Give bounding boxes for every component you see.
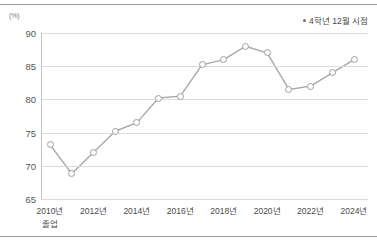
data-point-marker[interactable] [47,141,54,148]
y-gridline [42,33,368,34]
data-point-marker[interactable] [307,83,314,90]
data-point-marker[interactable] [242,43,249,50]
y-axis-tick-label: 90 [0,28,36,39]
y-axis-tick-label: 70 [0,160,36,171]
plot-area: 9085807570652010년졸업2012년2014년2016년2018년2… [0,0,377,244]
y-gridline [42,133,368,134]
x-axis-tick-sublabel: 졸업 [37,217,64,229]
y-gridline [42,199,368,200]
data-point-marker[interactable] [112,128,119,135]
y-axis-tick-label: 85 [0,61,36,72]
data-point-marker[interactable] [199,61,206,68]
data-point-marker[interactable] [351,56,358,63]
x-axis-tick-label: 2010년졸업 [37,204,64,229]
x-axis-tick-label: 2016년 [167,204,194,216]
data-point-marker[interactable] [90,149,97,156]
data-point-marker[interactable] [177,93,184,100]
x-axis-tick-label: 2014년 [123,204,150,216]
x-axis-tick-label: 2022년 [297,204,324,216]
data-point-marker[interactable] [155,95,162,102]
y-axis-tick-label: 65 [0,194,36,205]
y-axis-tick-label: 75 [0,127,36,138]
x-axis-tick-label: 2018년 [210,204,237,216]
x-axis-tick-label: 2020년 [254,204,281,216]
y-axis-tick-label: 80 [0,94,36,105]
x-axis-tick-label: 2024년 [341,204,368,216]
y-gridline [42,166,368,167]
x-axis-tick-label: 2012년 [80,204,107,216]
y-axis-line [41,33,42,200]
chart-figure: (%) 4학년 12월 시점 9085807570652010년졸업2012년2… [0,0,377,244]
y-gridline [42,99,368,100]
